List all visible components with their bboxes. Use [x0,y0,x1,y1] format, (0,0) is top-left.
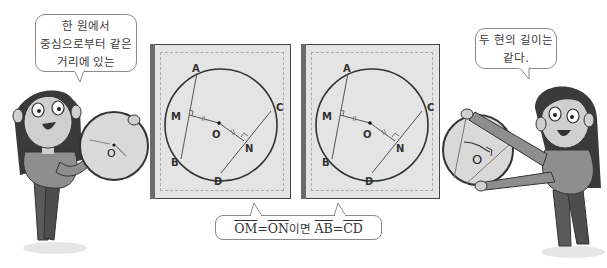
label-O: O [363,129,372,140]
theorem-connector: 이면 [289,222,315,236]
left-speech-line-2: 중심으로부터 같은 [36,35,136,53]
right-speech-line-2: 같다. [476,49,556,67]
label-C: C [427,102,434,113]
right-speech-line-1: 두 현의 길이는 [476,31,556,49]
label-M: M [171,111,181,122]
diagram-panel-1: A M O C N B D [150,44,291,199]
label-D: D [365,176,373,187]
segment-cd: CD [343,221,363,236]
segment-ab: AB [315,221,333,236]
label-B: B [322,157,330,168]
theorem-tail-cover [248,212,358,218]
label-N: N [245,143,253,154]
left-speech-bubble: 한 원에서 중심으로부터 같은 거리에 있는 [35,14,137,72]
label-D: D [214,176,222,187]
panel-1-circle-diagram: A M O C N B D [151,45,292,200]
left-disc-diagram: O [76,108,152,184]
right-speech-bubble: 두 현의 길이는 같다. [475,28,557,69]
segment-on: ON [268,221,289,236]
panel-2-circle-diagram: A M O C N B D [302,45,441,200]
equals-sign-2: = [333,221,343,236]
label-A: A [192,63,200,74]
label-M: M [322,111,332,122]
label-B: B [171,157,179,168]
theorem-bubble: OM=ON이면 AB=CD [215,215,382,240]
left-disc-center-label: O [107,147,116,160]
label-O: O [212,129,221,140]
diagram-panel-2: A M O C N B D [301,44,440,199]
left-speech-line-3: 거리에 있는 [36,53,136,71]
right-girl-illustration [455,78,607,268]
left-speech-line-1: 한 원에서 [36,17,136,35]
label-C: C [276,102,283,113]
segment-om: OM [234,221,257,236]
label-N: N [396,143,404,154]
equals-sign-1: = [257,221,267,236]
label-A: A [343,63,351,74]
